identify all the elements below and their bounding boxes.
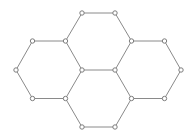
- graph-vertex-marker: [129, 39, 133, 43]
- graph-vertex-marker: [113, 125, 117, 129]
- graph-vertex-marker: [63, 39, 67, 43]
- graph-vertex-marker: [179, 68, 183, 72]
- graph-edge: [115, 41, 132, 70]
- graph-edge: [165, 70, 182, 99]
- graph-edge: [16, 70, 33, 99]
- graph-vertex-marker: [80, 68, 84, 72]
- graph-edge: [115, 70, 132, 99]
- graph-vertex-marker: [129, 96, 133, 100]
- graph-vertex-marker: [14, 68, 18, 72]
- hexagonal-lattice-graph: [0, 0, 195, 139]
- graph-vertex-marker: [113, 11, 117, 15]
- figure-canvas: [0, 0, 195, 139]
- graph-vertex-marker: [80, 11, 84, 15]
- graph-edge: [66, 99, 83, 128]
- graph-edge: [115, 13, 132, 41]
- graph-vertex-marker: [162, 39, 166, 43]
- graph-edge: [165, 41, 182, 70]
- graph-edge: [16, 41, 33, 70]
- graph-edge: [66, 13, 83, 41]
- graph-vertex-marker: [162, 96, 166, 100]
- graph-edge: [66, 41, 83, 70]
- graph-vertex-marker: [113, 68, 117, 72]
- graph-vertex-marker: [30, 96, 34, 100]
- graph-vertex-marker: [80, 125, 84, 129]
- graph-vertex-marker: [63, 96, 67, 100]
- graph-edge: [115, 99, 132, 128]
- graph-edge: [66, 70, 83, 99]
- graph-vertex-marker: [30, 39, 34, 43]
